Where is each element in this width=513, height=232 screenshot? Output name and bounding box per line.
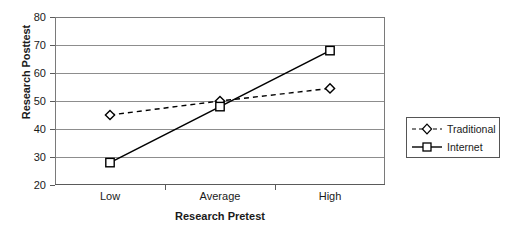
- legend-entry-internet: Internet: [412, 138, 483, 156]
- y-tick-label: 80: [22, 11, 46, 23]
- x-axis-title: Research Pretest: [55, 210, 385, 222]
- data-point-marker: [325, 84, 334, 93]
- y-tick-label: 30: [22, 151, 46, 163]
- data-point-marker: [105, 110, 114, 119]
- legend-key-dashed-diamond-icon: [412, 122, 442, 136]
- x-tick-label: High: [319, 190, 342, 202]
- legend: Traditional Internet: [406, 117, 500, 158]
- legend-entry-traditional: Traditional: [412, 120, 496, 138]
- plot-area: [55, 17, 385, 185]
- y-tick-label: 70: [22, 39, 46, 51]
- y-tick-label: 40: [22, 123, 46, 135]
- y-tick-label: 60: [22, 67, 46, 79]
- data-point-marker: [326, 46, 334, 54]
- legend-label-internet: Internet: [447, 141, 483, 153]
- y-tick-label: 50: [22, 95, 46, 107]
- data-point-marker: [106, 158, 114, 166]
- x-tick-mark: [275, 185, 276, 190]
- x-tick-mark: [165, 185, 166, 190]
- chart-figure: Research Posttest Research Pretest 20304…: [0, 0, 513, 232]
- data-point-marker: [216, 102, 224, 110]
- x-tick-label: Low: [100, 190, 120, 202]
- y-tick-mark: [50, 185, 55, 186]
- x-tick-label: Average: [200, 190, 241, 202]
- series-layer: [55, 17, 385, 185]
- y-tick-label: 20: [22, 179, 46, 191]
- legend-key-solid-square-icon: [412, 140, 442, 154]
- legend-label-traditional: Traditional: [447, 123, 496, 135]
